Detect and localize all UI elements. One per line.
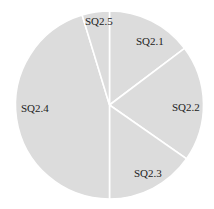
slice-label-sq2-3: SQ2.3 (134, 167, 162, 179)
slice-label-sq2-2: SQ2.2 (172, 101, 200, 113)
slice-label-sq2-5: SQ2.5 (85, 15, 113, 27)
pie-chart: SQ2.1 SQ2.2 SQ2.3 SQ2.4 SQ2.5 (0, 0, 214, 209)
slice-label-sq2-4: SQ2.4 (21, 102, 49, 114)
slice-label-sq2-1: SQ2.1 (136, 35, 164, 47)
